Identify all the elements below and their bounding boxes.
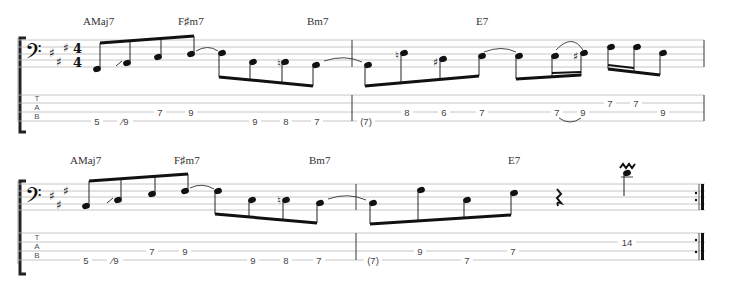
svg-text:♮: ♮: [277, 57, 281, 70]
svg-text:𝄢: 𝄢: [25, 183, 42, 213]
svg-text:A: A: [34, 242, 40, 251]
fret-number: 7: [316, 255, 321, 266]
fret-number: 7: [479, 107, 484, 118]
fret-number: 7: [510, 246, 515, 257]
repeat-end-barline: [695, 184, 703, 260]
key-signature-sharps-icon: ♯ ♯ ♯: [49, 41, 69, 69]
fret-number: (7): [367, 255, 379, 266]
svg-text:4: 4: [73, 55, 82, 70]
svg-text:A: A: [34, 103, 40, 112]
fret-number: 9: [188, 107, 193, 118]
tab-frets: 5 ∕9 7 9 9 8 7 (7) 9 7 7 14: [80, 237, 636, 266]
chord-symbol: AMaj7: [70, 154, 102, 166]
fret-number: 7: [554, 107, 559, 118]
svg-text:♯: ♯: [49, 46, 55, 60]
fret-number: 9: [250, 255, 255, 266]
svg-text:𝄢: 𝄢: [25, 39, 42, 69]
fret-number: 9: [417, 246, 422, 257]
time-signature: 4 4: [73, 41, 82, 70]
chord-symbol: Bm7: [307, 15, 329, 27]
fret-number: 7: [314, 116, 319, 127]
fret-number: 8: [283, 116, 288, 127]
fret-number: (7): [360, 116, 372, 127]
svg-text:♯: ♯: [56, 198, 62, 212]
svg-text:B: B: [34, 251, 39, 260]
chord-symbol: E7: [508, 154, 521, 166]
notes-measure-1: ♮: [92, 36, 362, 86]
fret-number: 9: [252, 116, 257, 127]
svg-text:♯: ♯: [56, 55, 62, 69]
tab-label: T A B: [34, 233, 40, 260]
svg-text:♯: ♯: [63, 184, 69, 198]
fret-number: 9: [660, 107, 665, 118]
tab-label: T A B: [34, 94, 40, 121]
notes-measure-4: [368, 164, 635, 224]
chord-symbol: F♯m7: [174, 154, 200, 166]
svg-text:♯: ♯: [49, 189, 55, 203]
bass-clef-icon: 𝄢: [25, 183, 42, 213]
fret-number: 7: [607, 98, 612, 109]
fret-number: 5: [94, 116, 99, 127]
bass-clef-icon: 𝄢: [25, 39, 42, 69]
tab-frets: 5 ∕9 7 9 9 8 7 (7) 8 6 7 7 9: [91, 98, 669, 127]
notes-measure-3: ♮: [81, 174, 366, 223]
svg-text:♮: ♮: [277, 194, 281, 207]
fret-number: 14: [622, 237, 633, 248]
svg-text:♮: ♮: [395, 49, 399, 62]
svg-text:4: 4: [73, 41, 82, 56]
fret-number: ∕9: [120, 116, 129, 127]
fret-number: 7: [633, 98, 638, 109]
svg-text:♯: ♯: [63, 41, 69, 55]
fret-number: 7: [149, 246, 154, 257]
key-signature-sharps-icon: ♯ ♯ ♯: [49, 184, 69, 212]
svg-text:T: T: [35, 94, 40, 103]
vibrato-icon: [620, 164, 635, 168]
fret-number: 7: [157, 107, 162, 118]
chord-symbols: AMaj7 F♯m7 Bm7 E7: [70, 154, 521, 166]
fret-number: 8: [283, 255, 288, 266]
system-1: 𝄢 ♯ ♯ ♯ 4 4 T A B AMaj7 F♯m7 Bm7 E7: [18, 15, 704, 132]
chord-symbol: E7: [476, 15, 489, 27]
notes-measure-2: ♮ ♯ ♯: [363, 42, 668, 87]
svg-text:♯: ♯: [573, 50, 578, 63]
fret-number: 7: [464, 255, 469, 266]
svg-text:T: T: [35, 233, 40, 242]
fret-number: ∕9: [110, 255, 119, 266]
fret-number: 9: [580, 107, 585, 118]
svg-text:♯: ♯: [433, 56, 438, 69]
chord-symbol: Bm7: [309, 154, 331, 166]
chord-symbols: AMaj7 F♯m7 Bm7 E7: [83, 15, 489, 27]
system-2: 𝄢 ♯ ♯ ♯ T A B AMaj7 F♯m7 Bm7 E7: [18, 154, 705, 274]
fret-number: 6: [441, 107, 446, 118]
notation-staff: [18, 40, 704, 67]
fret-number: 9: [182, 246, 187, 257]
fret-number: 5: [83, 255, 88, 266]
chord-symbol: F♯m7: [178, 15, 204, 27]
fret-number: 8: [404, 107, 409, 118]
svg-text:B: B: [34, 112, 39, 121]
quarter-rest-icon: [557, 189, 561, 206]
chord-symbol: AMaj7: [83, 15, 115, 27]
music-score: 𝄢 ♯ ♯ ♯ 4 4 T A B AMaj7 F♯m7 Bm7 E7: [0, 0, 744, 285]
